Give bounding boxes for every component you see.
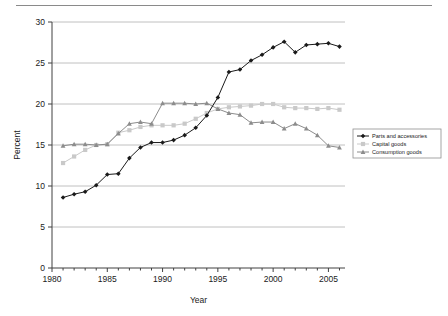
legend-label-0: Parts and accessories — [372, 133, 427, 139]
series-1-point-1 — [72, 154, 76, 158]
series-1-point-20 — [282, 105, 286, 109]
legend-marker-1 — [361, 142, 365, 146]
y-axis-title: Percent — [12, 130, 22, 160]
y-tick-label-5: 5 — [40, 222, 45, 232]
series-0-point-0 — [61, 195, 66, 200]
series-1-point-11 — [183, 122, 187, 126]
series-1-point-7 — [138, 125, 142, 129]
y-tick-label-30: 30 — [36, 17, 46, 27]
series-1-point-18 — [260, 102, 264, 106]
series-1-point-2 — [83, 148, 87, 152]
series-1-point-15 — [227, 105, 231, 109]
series-0-point-25 — [337, 44, 342, 49]
series-line-0 — [63, 42, 339, 198]
series-1-point-19 — [271, 102, 275, 106]
series-1-point-0 — [61, 161, 65, 165]
series-0-point-9 — [160, 140, 165, 145]
top-divider — [16, 5, 432, 6]
series-0-point-1 — [72, 192, 77, 197]
y-tick-label-15: 15 — [36, 140, 46, 150]
series-0-point-24 — [326, 41, 331, 46]
series-1-point-6 — [127, 128, 131, 132]
series-0-point-8 — [149, 140, 154, 145]
series-1-point-9 — [160, 123, 164, 127]
series-1-point-21 — [293, 106, 297, 110]
series-1-point-12 — [194, 117, 198, 121]
series-1-point-17 — [249, 104, 253, 108]
series-0-point-15 — [227, 70, 232, 75]
series-line-2 — [63, 103, 339, 147]
line-chart: 051015202530198019851990199520002005Year… — [0, 0, 448, 316]
legend-label-2: Consumption goods — [372, 149, 422, 155]
series-0-point-23 — [315, 42, 320, 47]
x-axis-title: Year — [190, 295, 207, 305]
x-tick-label-1985: 1985 — [98, 274, 117, 284]
series-1-point-10 — [172, 123, 176, 127]
x-tick-label-1995: 1995 — [208, 274, 227, 284]
series-0-point-2 — [83, 189, 88, 194]
legend-label-1: Capital goods — [372, 141, 406, 147]
series-0-point-10 — [171, 138, 176, 143]
x-tick-label-1990: 1990 — [153, 274, 172, 284]
series-1-point-23 — [315, 107, 319, 111]
series-0-point-14 — [216, 95, 221, 100]
series-1-point-25 — [337, 108, 341, 112]
x-tick-label-2005: 2005 — [319, 274, 338, 284]
series-2-point-23 — [315, 133, 320, 138]
y-tick-label-10: 10 — [36, 181, 46, 191]
x-tick-label-1980: 1980 — [43, 274, 62, 284]
y-tick-label-25: 25 — [36, 58, 46, 68]
series-2-point-21 — [293, 121, 298, 126]
chart-figure: 051015202530198019851990199520002005Year… — [0, 0, 448, 316]
y-tick-label-20: 20 — [36, 99, 46, 109]
series-1-point-16 — [238, 104, 242, 108]
series-1-point-24 — [326, 106, 330, 110]
x-tick-label-2000: 2000 — [264, 274, 283, 284]
series-line-1 — [63, 104, 339, 163]
y-tick-label-0: 0 — [40, 263, 45, 273]
series-1-point-22 — [304, 106, 308, 110]
